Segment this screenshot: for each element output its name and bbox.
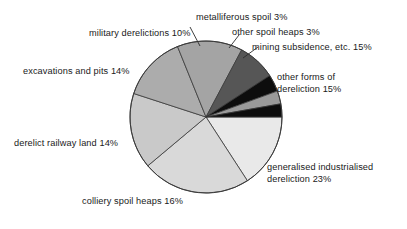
slice-label-excavations-and-pits: excavations and pits 14% [23, 66, 130, 78]
slice-label-metalliferous-spoil: metalliferous spoil 3% [196, 12, 288, 24]
slice-label-generalised-industrialised-dereliction: generalised industrialised dereliction 2… [267, 162, 402, 185]
slice-label-other-forms-line1: other forms of [277, 72, 335, 82]
slice-label-other-forms-line2: dereliction 15% [277, 84, 341, 94]
slice-label-generalised-line2: dereliction 23% [267, 174, 331, 184]
slice-label-other-forms-of-dereliction: other forms of dereliction 15% [277, 72, 372, 95]
slice-label-colliery-spoil-heaps: colliery spoil heaps 16% [82, 196, 183, 208]
slice-label-derelict-railway-land: derelict railway land 14% [14, 138, 118, 150]
slice-label-other-spoil-heaps: other spoil heaps 3% [232, 27, 320, 39]
slice-label-generalised-line1: generalised industrialised [267, 162, 373, 172]
pie-chart-canvas [0, 0, 407, 229]
slice-label-mining-subsidence: mining subsidence, etc. 15% [252, 42, 372, 54]
slice-label-military-derelictions: military derelictions 10% [89, 28, 191, 40]
pie-slices [130, 41, 282, 193]
pie-chart-figure: metalliferous spoil 3% other spoil heaps… [0, 0, 407, 229]
